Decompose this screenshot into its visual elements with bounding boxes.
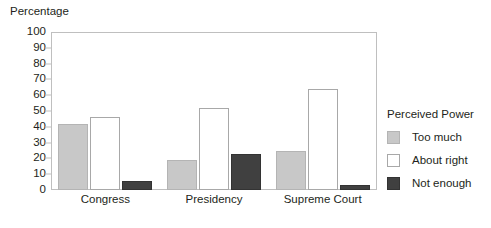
bar-congress-too-much — [58, 124, 88, 190]
legend-title: Perceived Power — [387, 108, 491, 120]
y-axis-tick-labels: 1009080706050403020100 — [0, 32, 46, 190]
bar-supreme-court-too-much — [276, 151, 306, 191]
legend-label: Too much — [412, 131, 462, 143]
bar-presidency-too-much — [167, 160, 197, 190]
y-tick-label-100: 100 — [27, 26, 46, 38]
bar-chart-figure: Percentage 1009080706050403020100 Congre… — [0, 0, 491, 228]
y-tick-label-0: 0 — [40, 184, 46, 196]
bar-presidency-not-enough — [231, 154, 261, 190]
legend: Perceived Power Too muchAbout rightNot e… — [387, 108, 491, 196]
bar-supreme-court-not-enough — [340, 185, 370, 190]
legend-item-not-enough[interactable]: Not enough — [387, 173, 491, 193]
legend-items: Too muchAbout rightNot enough — [387, 127, 491, 193]
x-category-label-presidency: Presidency — [186, 193, 243, 205]
x-category-label-supreme-court: Supreme Court — [284, 193, 362, 205]
x-axis-category-labels: CongressPresidencySupreme Court — [51, 193, 377, 215]
y-axis-title: Percentage — [10, 5, 69, 17]
legend-label: Not enough — [412, 177, 471, 189]
bar-supreme-court-about-right — [308, 89, 338, 190]
x-category-label-congress: Congress — [81, 193, 130, 205]
legend-item-about-right[interactable]: About right — [387, 150, 491, 170]
legend-swatch-icon-not-enough — [387, 177, 400, 190]
bar-presidency-about-right — [199, 108, 229, 190]
bar-congress-about-right — [90, 117, 120, 190]
bar-congress-not-enough — [122, 181, 152, 190]
bar-series-container — [51, 32, 377, 190]
legend-item-too-much[interactable]: Too much — [387, 127, 491, 147]
legend-label: About right — [412, 154, 468, 166]
legend-swatch-icon-too-much — [387, 131, 400, 144]
legend-swatch-icon-about-right — [387, 154, 400, 167]
